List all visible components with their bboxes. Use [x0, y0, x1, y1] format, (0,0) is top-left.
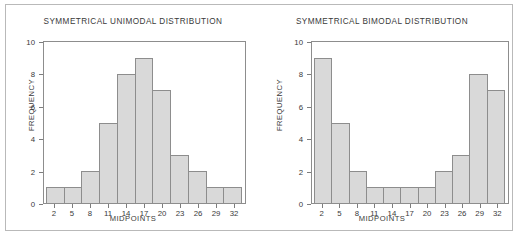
x-axis-label-unimodal: MIDPOINTS: [6, 214, 260, 223]
figure-container: SYMMETRICAL UNIMODAL DISTRIBUTION FREQUE…: [5, 4, 513, 231]
x-tick-mark: [234, 204, 235, 208]
chart-title-unimodal: SYMMETRICAL UNIMODAL DISTRIBUTION: [6, 17, 260, 26]
x-tick-mark: [90, 204, 91, 208]
bar: [135, 58, 154, 203]
y-tick-mark: [307, 139, 311, 140]
bar-series-unimodal: [46, 42, 242, 203]
x-tick-mark: [162, 204, 163, 208]
bar: [314, 58, 332, 203]
y-tick-mark: [307, 172, 311, 173]
y-tick-label: 4: [13, 135, 35, 144]
bar: [64, 187, 83, 203]
bar: [383, 187, 401, 203]
x-tick-mark: [462, 204, 463, 208]
chart-panel-bimodal: SYMMETRICAL BIMODAL DISTRIBUTION FREQUEN…: [255, 5, 509, 230]
y-tick-mark: [39, 107, 43, 108]
bar: [99, 123, 118, 204]
y-tick-label: 4: [281, 135, 303, 144]
bar: [349, 171, 367, 203]
y-tick-label: 6: [281, 102, 303, 111]
x-tick-mark: [445, 204, 446, 208]
plot-area-unimodal: [43, 41, 246, 204]
x-tick-mark: [198, 204, 199, 208]
y-tick-mark: [39, 204, 43, 205]
x-tick-mark: [180, 204, 181, 208]
x-tick-mark: [374, 204, 375, 208]
bar: [400, 187, 418, 203]
y-tick-mark: [307, 42, 311, 43]
bar: [152, 90, 171, 203]
bar: [435, 171, 453, 203]
x-tick-mark: [392, 204, 393, 208]
x-tick-mark: [410, 204, 411, 208]
chart-title-bimodal: SYMMETRICAL BIMODAL DISTRIBUTION: [255, 17, 509, 26]
x-tick-mark: [72, 204, 73, 208]
x-tick-mark: [322, 204, 323, 208]
bar: [487, 90, 505, 203]
bar: [117, 74, 136, 203]
bar: [452, 155, 470, 203]
x-tick-mark: [108, 204, 109, 208]
bar: [81, 171, 100, 203]
x-tick-mark: [427, 204, 428, 208]
y-tick-label: 0: [13, 200, 35, 209]
y-tick-label: 10: [13, 38, 35, 47]
y-tick-label: 2: [13, 167, 35, 176]
y-tick-label: 6: [13, 102, 35, 111]
y-tick-label: 10: [281, 38, 303, 47]
y-tick-mark: [307, 204, 311, 205]
x-tick-mark: [339, 204, 340, 208]
y-tick-mark: [39, 172, 43, 173]
chart-panel-unimodal: SYMMETRICAL UNIMODAL DISTRIBUTION FREQUE…: [6, 5, 260, 230]
y-tick-mark: [39, 74, 43, 75]
bar: [366, 187, 384, 203]
y-tick-label: 8: [281, 70, 303, 79]
y-tick-mark: [39, 139, 43, 140]
x-tick-mark: [54, 204, 55, 208]
x-tick-mark: [144, 204, 145, 208]
x-axis-label-bimodal: MIDPOINTS: [255, 214, 509, 223]
y-tick-mark: [39, 42, 43, 43]
y-tick-label: 2: [281, 167, 303, 176]
y-tick-label: 8: [13, 70, 35, 79]
y-tick-label: 0: [281, 200, 303, 209]
bar: [188, 171, 207, 203]
bar-series-bimodal: [314, 42, 505, 203]
bar: [223, 187, 242, 203]
bar: [469, 74, 487, 203]
bar: [170, 155, 189, 203]
x-tick-mark: [497, 204, 498, 208]
x-tick-mark: [357, 204, 358, 208]
x-tick-mark: [126, 204, 127, 208]
bar: [206, 187, 225, 203]
x-tick-mark: [216, 204, 217, 208]
bar: [418, 187, 436, 203]
bar: [331, 123, 349, 204]
x-tick-mark: [480, 204, 481, 208]
plot-area-bimodal: [311, 41, 509, 204]
y-tick-mark: [307, 107, 311, 108]
y-tick-mark: [307, 74, 311, 75]
bar: [46, 187, 65, 203]
